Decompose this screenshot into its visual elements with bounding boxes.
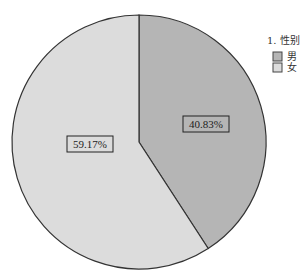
pie-chart: 40.83%59.17% 1. 性别 男 女: [0, 0, 308, 277]
legend-title: 1. 性别: [267, 34, 300, 46]
legend-item-male: 男: [273, 51, 297, 62]
legend-swatch-female: [273, 63, 282, 72]
legend-item-female: 女: [273, 61, 297, 73]
slice-label: 40.83%: [189, 118, 223, 130]
legend-label-male: 男: [287, 51, 297, 62]
legend: 1. 性别 男 女: [267, 34, 300, 73]
legend-swatch-male: [273, 52, 282, 61]
slice-label: 59.17%: [73, 138, 107, 150]
legend-label-female: 女: [287, 61, 297, 73]
pie-slices: [12, 15, 266, 269]
